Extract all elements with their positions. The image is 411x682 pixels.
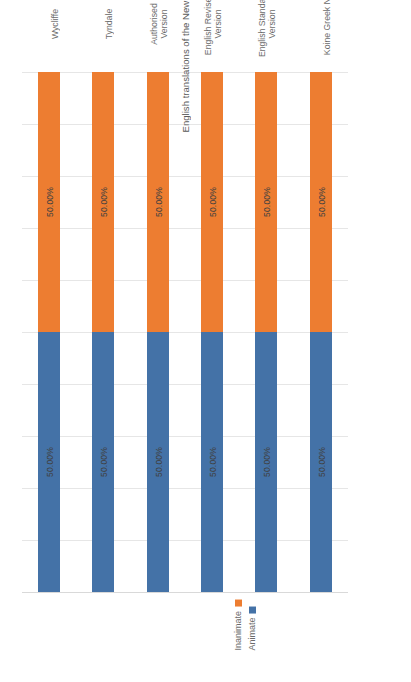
x-tick-label: Wycliffe <box>50 0 60 62</box>
gridline-30% <box>22 436 348 437</box>
legend-label-animate: Animate <box>247 618 257 651</box>
gridline-40% <box>22 384 348 385</box>
data-label-animate: 50.00% <box>208 445 218 479</box>
data-label-inanimate: 50.00% <box>100 185 110 219</box>
gridline-50% <box>22 332 348 333</box>
data-label-inanimate: 50.00% <box>154 185 164 219</box>
x-tick-label: English Standard Version <box>258 0 278 62</box>
x-tick-label: English Revised Version <box>203 0 223 62</box>
data-label-animate: 50.00% <box>317 445 327 479</box>
data-label-animate: 50.00% <box>45 445 55 479</box>
data-label-animate: 50.00% <box>100 445 110 479</box>
x-tick-label: Koine Greek NT <box>322 0 332 62</box>
legend-swatch-inanimate <box>235 600 242 607</box>
legend-label-inanimate: Inanimate <box>233 611 243 651</box>
bar-group <box>310 72 332 592</box>
gridline-10% <box>22 540 348 541</box>
chart-legend: Inanimate Animate <box>233 600 261 651</box>
bar-group <box>201 72 223 592</box>
bar-group <box>147 72 169 592</box>
legend-item-inanimate[interactable]: Inanimate <box>233 600 243 651</box>
gridline-80% <box>22 176 348 177</box>
gridline-70% <box>22 228 348 229</box>
data-label-inanimate: 50.00% <box>263 185 273 219</box>
bar-group <box>256 72 278 592</box>
data-label-inanimate: 50.00% <box>208 185 218 219</box>
legend-swatch-animate <box>249 607 256 614</box>
legend-item-animate[interactable]: Animate <box>247 600 257 651</box>
data-label-animate: 50.00% <box>263 445 273 479</box>
data-label-inanimate: 50.00% <box>45 185 55 219</box>
x-tick-label: Tyndale <box>105 0 115 62</box>
chart-canvas: Inanimate Animate English translations o… <box>0 0 411 682</box>
gridline-60% <box>22 280 348 281</box>
data-label-inanimate: 50.00% <box>317 185 327 219</box>
bar-group <box>93 72 115 592</box>
bar-group <box>38 72 60 592</box>
gridline-20% <box>22 488 348 489</box>
x-axis-title: English translations of the New Testamen… <box>180 0 191 152</box>
gridline-0% <box>22 592 348 593</box>
x-tick-label: Authorised Version <box>149 0 169 62</box>
data-label-animate: 50.00% <box>154 445 164 479</box>
